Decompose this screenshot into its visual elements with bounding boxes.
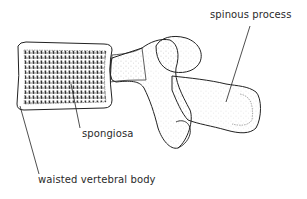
leader-vertebral-body xyxy=(20,106,39,174)
vertebral-body xyxy=(17,42,112,110)
label-spinous-process: spinous process xyxy=(210,9,291,20)
label-vertebral-body: waisted vertebral body xyxy=(38,174,156,185)
label-spongiosa: spongiosa xyxy=(82,128,134,139)
vertebra-illustration xyxy=(0,0,307,199)
